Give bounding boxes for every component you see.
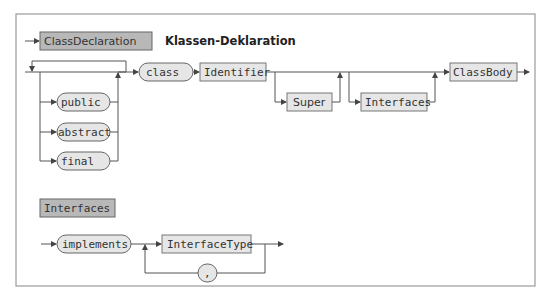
svg-text:ClassBody: ClassBody	[453, 66, 513, 79]
nonterminal-identifier: Identifier	[200, 63, 271, 81]
svg-text:abstract: abstract	[58, 126, 111, 139]
terminal-abstract: abstract	[57, 123, 111, 141]
terminal-final: final	[57, 152, 110, 170]
nonterminal-super: Super	[287, 93, 332, 111]
svg-text:public: public	[61, 96, 101, 109]
svg-text:InterfaceType: InterfaceType	[167, 238, 253, 251]
nonterminal-interfaces: Interfaces	[361, 93, 431, 111]
nonterminal-interfacetype: InterfaceType	[162, 235, 253, 253]
syntax-diagram: ClassDeclaration Klassen-Deklaration pub…	[0, 0, 548, 297]
nonterminal-classbody: ClassBody	[450, 63, 517, 81]
terminal-implements: implements	[57, 235, 131, 253]
svg-text:Interfaces: Interfaces	[365, 96, 431, 109]
svg-text:class: class	[146, 66, 179, 79]
svg-text:final: final	[61, 155, 94, 168]
svg-text:Super: Super	[293, 96, 326, 109]
rule-interfaces-header: Interfaces	[40, 199, 115, 217]
svg-text:,: ,	[204, 267, 211, 280]
terminal-comma: ,	[198, 264, 217, 282]
classdeclaration-label: ClassDeclaration	[44, 35, 136, 48]
terminal-public: public	[57, 93, 110, 111]
svg-text:Identifier: Identifier	[204, 66, 271, 79]
rule-title: Klassen-Deklaration	[165, 34, 296, 48]
interfaces-label: Interfaces	[44, 202, 110, 215]
terminal-class: class	[139, 63, 193, 81]
svg-text:implements: implements	[62, 238, 128, 251]
